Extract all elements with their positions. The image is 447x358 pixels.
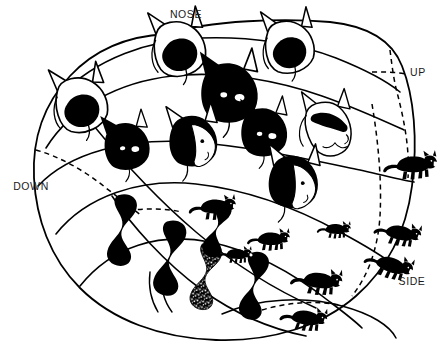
label-side: SIDE (399, 275, 426, 287)
label-down: DOWN (13, 180, 49, 192)
figure-root: NOSE UP DOWN SIDE (0, 0, 447, 358)
label-up: UP (410, 66, 426, 78)
cat-cortical-map-diagram: NOSE UP DOWN SIDE (0, 0, 447, 358)
label-nose: NOSE (170, 8, 202, 20)
